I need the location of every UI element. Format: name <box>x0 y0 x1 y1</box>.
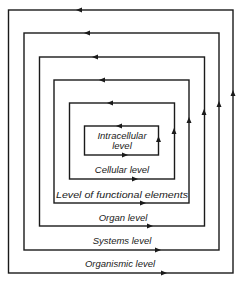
organ-level-label: Organ level <box>99 212 148 223</box>
arrow-right-icon <box>155 248 161 253</box>
arrow-left-icon <box>76 8 82 13</box>
arrow-up-icon <box>202 109 207 115</box>
arrow-right-icon <box>132 177 138 182</box>
arrow-up-icon <box>156 136 161 142</box>
biological-levels-diagram: Organismic level Systems level Organ lev… <box>0 0 241 283</box>
arrow-up-icon <box>187 117 192 123</box>
arrow-right-icon <box>140 201 146 206</box>
functional-elements-level-label: Level of functional elements <box>56 189 188 200</box>
intracellular-level-label-line2: level <box>112 140 132 151</box>
cellular-level-label: Cellular level <box>95 164 150 175</box>
arrow-up-icon <box>231 90 236 96</box>
arrow-left-icon <box>116 124 122 129</box>
arrow-left-icon <box>84 31 90 36</box>
arrow-up-icon <box>217 101 222 107</box>
arrow-left-icon <box>99 78 105 83</box>
intracellular-level-loop: Intracellular level <box>85 124 162 158</box>
organismic-level-label: Organismic level <box>85 258 156 269</box>
arrow-left-icon <box>107 101 113 106</box>
arrow-right-icon <box>122 153 128 158</box>
systems-level-label: Systems level <box>93 235 152 246</box>
arrow-up-icon <box>172 128 177 134</box>
arrow-right-icon <box>147 224 153 229</box>
arrow-right-icon <box>161 271 167 276</box>
arrow-left-icon <box>92 55 98 60</box>
